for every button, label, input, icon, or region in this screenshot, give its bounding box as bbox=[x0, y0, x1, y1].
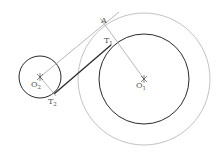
label-t1: T1 bbox=[104, 36, 113, 46]
label-t2: T2 bbox=[48, 97, 57, 107]
label-o1: O1 bbox=[136, 81, 146, 91]
tangent-diagram: A T1 T2 O1 O2 bbox=[0, 0, 222, 155]
label-a: A bbox=[100, 16, 107, 25]
internal-tangent-t1-t2 bbox=[54, 45, 111, 94]
radius-o2-t2 bbox=[40, 77, 56, 96]
label-o2: O2 bbox=[31, 80, 41, 90]
